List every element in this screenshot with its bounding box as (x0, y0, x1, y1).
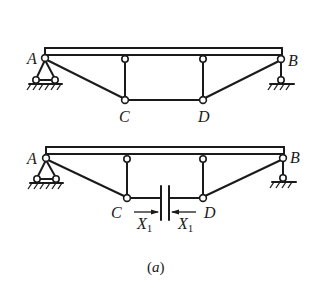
bottom-hinge-post-d (200, 156, 206, 162)
top-hinge-post-d (200, 56, 206, 62)
force-label-left: X1 (136, 215, 152, 234)
bottom-hinge-post-c (124, 156, 130, 162)
bottom-label-c: C (111, 204, 122, 221)
truss-diagram: A B C D X1 (0, 0, 332, 306)
top-label-d: D (197, 108, 210, 125)
bottom-label-d: D (203, 204, 216, 221)
top-beam (45, 48, 282, 55)
bottom-structure: X1 X1 (26, 147, 300, 234)
bottom-node-d (200, 195, 207, 202)
top-structure: A B C D (26, 48, 298, 125)
top-hinge-post-c (122, 56, 128, 62)
bottom-node-a (43, 155, 50, 162)
top-label-c: C (119, 108, 130, 125)
bottom-bar-db (205, 160, 281, 196)
bottom-node-c (124, 195, 131, 202)
top-node-c (122, 97, 129, 104)
top-label-a: A (26, 50, 37, 67)
figure-caption: (a) (147, 259, 165, 276)
bottom-label-a: A (26, 150, 37, 167)
top-bar-db (205, 61, 279, 98)
top-node-b (278, 56, 285, 63)
top-node-d (200, 97, 207, 104)
bottom-beam (46, 147, 284, 154)
force-label-right: X1 (177, 215, 193, 234)
top-node-a (42, 55, 49, 62)
top-label-b: B (288, 52, 298, 69)
bottom-node-b (280, 155, 287, 162)
bottom-label-b: B (290, 149, 300, 166)
force-arrow-right-icon (171, 210, 196, 215)
force-arrow-left-icon (134, 210, 159, 215)
